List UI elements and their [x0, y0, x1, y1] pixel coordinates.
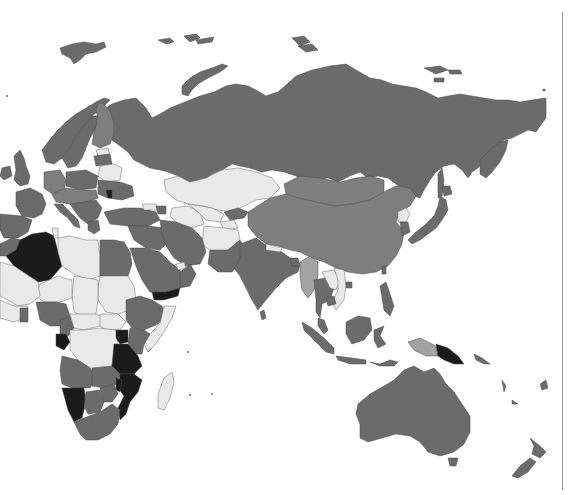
kuril-fragment: [543, 89, 546, 92]
ghana: [20, 308, 28, 322]
map-svg: [0, 0, 570, 495]
hainan: [346, 282, 352, 288]
choropleth-map: [0, 0, 570, 495]
georgia-armenia: [142, 204, 158, 210]
seychelles: [187, 351, 189, 353]
taiwan: [382, 266, 386, 274]
azerbaijan: [156, 206, 166, 214]
iceland-fragment: [6, 95, 8, 97]
bangladesh: [290, 258, 300, 266]
tasmania: [448, 458, 458, 466]
reunion: [211, 393, 213, 395]
hokkaido: [442, 186, 452, 196]
cambodia: [326, 296, 336, 306]
latvia-lithuania: [94, 154, 112, 166]
frame-border: [562, 12, 563, 490]
chad: [72, 276, 98, 318]
turkey: [104, 208, 160, 226]
mauritius: [189, 394, 191, 396]
